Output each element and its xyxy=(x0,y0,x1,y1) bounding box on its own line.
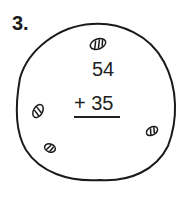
chocolate-chip-icon xyxy=(31,103,46,120)
chocolate-chip-icon xyxy=(89,37,107,52)
chocolate-chip-icon xyxy=(43,142,56,153)
chocolate-chip-icon xyxy=(145,125,159,138)
sum-line xyxy=(74,116,120,118)
addend-bottom-with-operator: + 35 xyxy=(74,92,113,115)
addend-top: 54 xyxy=(92,58,114,81)
